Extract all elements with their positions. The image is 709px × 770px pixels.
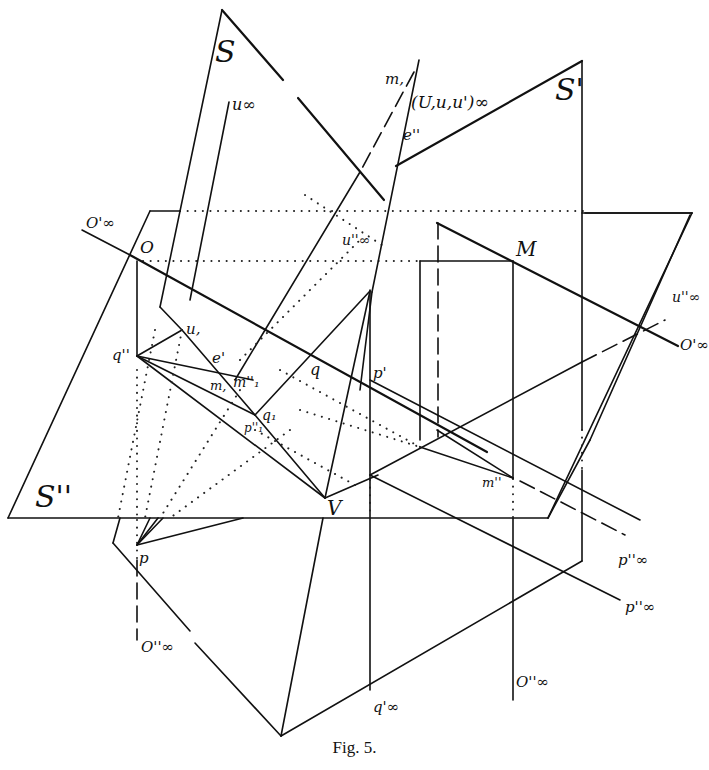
label-u-infinity: u∞ [232,95,256,114]
construction-lines [137,291,378,498]
label-p-double-prime-infinity-1: p''∞ [618,551,648,569]
label-m-double-prime: m'' [482,475,501,490]
label-o-prime-infinity-left: O'∞ [86,214,115,232]
label-s-double-prime: S'' [35,479,72,514]
label-s: S [215,34,236,69]
figure-caption: Fig. 5. [0,738,709,758]
label-o: O [140,237,154,257]
label-u1: u, [186,320,200,338]
label-m-upper: M [515,237,537,261]
label-u-double-prime-infinity: u''∞ [342,232,370,248]
label-p-prime: p' [373,364,387,382]
plane-s-prime [396,61,692,430]
label-m1: m, [210,378,226,393]
label-p-double-prime-infinity-2: p''∞ [625,598,655,616]
label-e-double-prime: e'' [403,126,420,144]
labels: S S' S'' u∞ (U,u,u')∞ m, e'' O'∞ O u''∞ … [35,34,709,716]
label-o-double-prime-infinity-right: O''∞ [516,673,549,691]
lower-plane [113,470,582,736]
label-m1-top: m, [385,70,404,88]
line-o-infinity [82,223,678,452]
label-s-prime: S' [555,72,584,107]
label-q1: q₁ [262,407,277,423]
p-infinity-lines [280,320,665,600]
p-fan [137,518,243,545]
label-q-double-prime: q'' [112,346,130,364]
plane-s-double-prime [8,211,692,518]
geometry-figure: S S' S'' u∞ (U,u,u')∞ m, e'' O'∞ O u''∞ … [0,0,709,770]
label-q: q [310,360,320,379]
line-e-double-prime [235,60,419,390]
label-p1-double-prime: p''₁ [244,421,263,435]
label-uuu-infinity: (U,u,u')∞ [411,92,489,112]
label-v: V [327,496,344,520]
label-m1-double-prime: m''₁ [233,374,260,390]
label-q-prime-infinity: q'∞ [373,698,399,716]
label-o-double-prime-infinity-left: O''∞ [141,638,174,656]
plane-s [160,10,384,330]
label-u-double-prime-infinity-right: u''∞ [672,289,700,305]
label-o-prime-infinity-right: O'∞ [680,336,709,354]
label-p: p [139,549,149,567]
label-e-prime: e' [212,349,225,367]
